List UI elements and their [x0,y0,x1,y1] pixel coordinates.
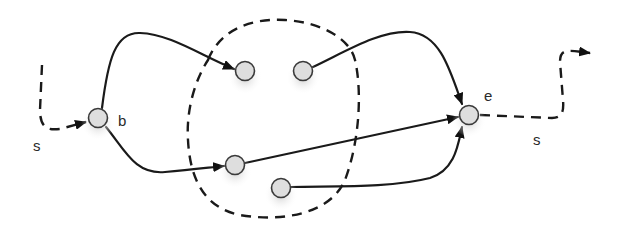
label-b: b [118,112,126,129]
edge-b-to-n3 [106,127,224,172]
edge-n2-to-e [313,32,462,104]
node-b [81,105,115,139]
label-incoming-s: s [33,137,41,154]
outgoing-dashed-path [480,51,590,118]
incoming-dashed-path [40,65,86,129]
label-outgoing-s: s [533,131,541,148]
label-e: e [484,87,492,104]
edge-n4-to-e [291,127,462,187]
node-inner-bottom [264,176,298,210]
node-inner-top-right [286,59,320,93]
node-inner-top-left [228,59,262,93]
edge-b-to-n1 [102,33,234,108]
node-inner-middle [218,153,252,187]
node-e [452,102,486,136]
diagram-canvas: b e s s [0,0,624,233]
